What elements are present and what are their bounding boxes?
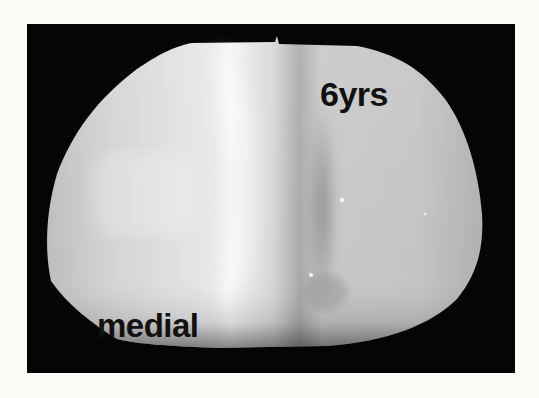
duration-label: 6yrs <box>320 77 388 111</box>
specular-spot <box>423 212 426 215</box>
specular-spot <box>309 273 313 277</box>
side-label: medial <box>97 309 199 342</box>
wear-patch <box>92 154 192 234</box>
photo-frame: 6yrs medial <box>27 24 515 373</box>
groove-end <box>303 274 347 310</box>
specular-spot <box>340 198 344 202</box>
